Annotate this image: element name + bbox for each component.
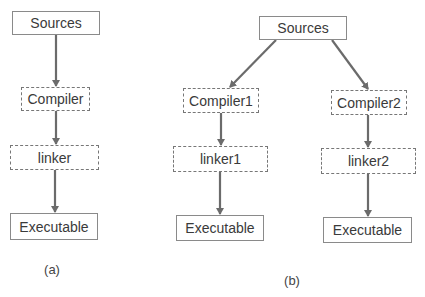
node-compiler1-b: Compiler1 (183, 88, 259, 113)
arrow-sources-to-compiler1 (230, 40, 276, 87)
node-sources-a: Sources (12, 11, 100, 35)
caption-b: (b) (284, 273, 300, 288)
node-executable2-b: Executable (323, 217, 412, 243)
node-linker1-b: linker1 (173, 146, 268, 172)
node-linker2-b: linker2 (321, 148, 416, 174)
node-compiler2-b: Compiler2 (331, 90, 407, 115)
node-sources-b: Sources (259, 16, 347, 40)
node-compiler-a: Compiler (21, 87, 90, 111)
caption-a: (a) (44, 262, 60, 277)
node-linker-a: linker (10, 145, 99, 170)
arrow-sources-to-compiler2 (332, 40, 368, 89)
node-executable1-b: Executable (176, 215, 264, 241)
node-executable-a: Executable (10, 213, 98, 240)
